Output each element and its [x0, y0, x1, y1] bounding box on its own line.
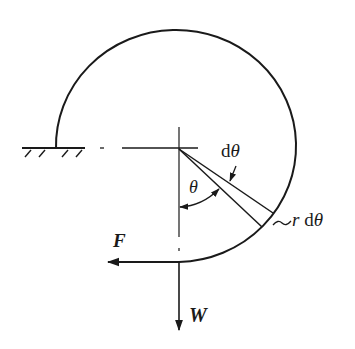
ground-hatching	[25, 150, 82, 157]
r-dtheta-r: r	[292, 209, 299, 230]
dtheta-symbol: θ	[231, 140, 240, 161]
dtheta-label: dθ	[221, 141, 240, 160]
r-dtheta-leader	[273, 221, 291, 225]
r-dtheta-d: d	[304, 209, 314, 230]
dtheta-d: d	[221, 140, 231, 161]
r-dtheta-symbol: θ	[314, 209, 323, 230]
r-dtheta-label: r dθ	[292, 210, 323, 229]
dtheta-pointer-arrow	[230, 166, 236, 181]
force-f-label: F	[113, 231, 126, 250]
theta-label: θ	[189, 178, 198, 196]
diagram-canvas: F W θ dθ r dθ	[0, 0, 355, 349]
weight-w-label: W	[189, 305, 207, 325]
theta-angle-arc	[180, 189, 219, 207]
diagram-graphics	[0, 0, 355, 349]
fixed-support	[22, 148, 85, 157]
circular-rod-arc	[56, 30, 296, 262]
